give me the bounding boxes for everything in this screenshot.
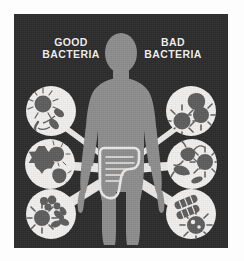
- callout-good-1-disc: [26, 86, 76, 136]
- label-good-bacteria: GOOD BACTERIA: [28, 36, 114, 60]
- callout-good-3[interactable]: [26, 189, 76, 239]
- callout-bad-3[interactable]: [166, 189, 216, 241]
- microbe-sun-coccus: [27, 203, 57, 233]
- callout-good-2[interactable]: [25, 139, 75, 189]
- microbe-spiky-coccus-right: [190, 147, 220, 177]
- callout-bad-1[interactable]: [166, 86, 216, 137]
- microbe-spiky-virus-b: [166, 105, 198, 137]
- label-bad-bacteria: BAD BACTERIA: [130, 36, 216, 60]
- microbe-spiky-virus-a: [186, 100, 216, 130]
- infographic-panel: GOOD BACTERIA BAD BACTERIA: [14, 14, 228, 248]
- callout-good-1[interactable]: [26, 86, 76, 136]
- microbe-spiky-virus-bottom: [180, 209, 212, 241]
- infographic-canvas: GOOD BACTERIA BAD BACTERIA: [0, 0, 244, 261]
- callout-bad-2[interactable]: [167, 139, 220, 189]
